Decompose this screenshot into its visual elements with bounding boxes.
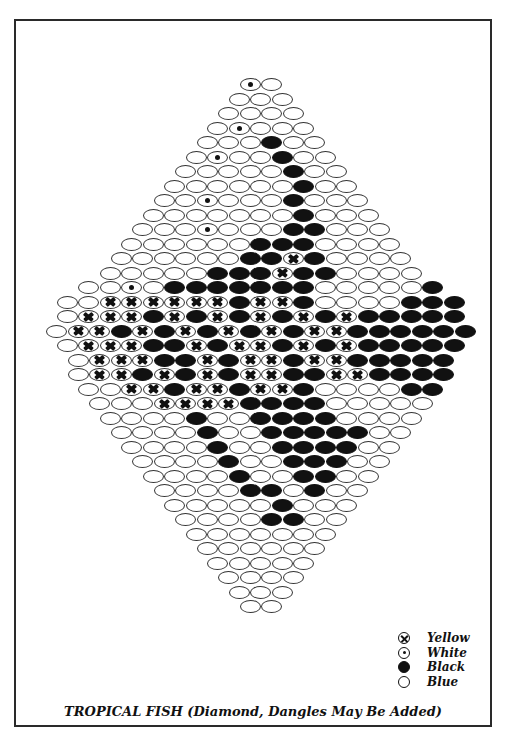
blue-bead: [261, 223, 282, 236]
black-bead: [283, 368, 304, 381]
blue-bead: [401, 281, 422, 294]
black-bead: [250, 281, 271, 294]
black-bead: [283, 397, 304, 410]
yellow-bead: [229, 339, 250, 352]
black-bead: [229, 281, 250, 294]
black-bead: [326, 455, 347, 468]
black-bead: [229, 383, 250, 396]
blue-bead: [186, 470, 207, 483]
black-bead: [401, 310, 422, 323]
black-bead: [315, 470, 336, 483]
black-bead: [207, 339, 228, 352]
black-bead: [401, 383, 422, 396]
blue-bead: [347, 194, 368, 207]
black-bead: [283, 354, 304, 367]
blue-bead: [154, 455, 175, 468]
blue-bead: [304, 136, 325, 149]
black-bead: [293, 470, 314, 483]
blue-bead: [175, 513, 196, 526]
blue-bead: [175, 426, 196, 439]
black-bead: [175, 368, 196, 381]
blue-bead: [326, 397, 347, 410]
blue-bead: [68, 354, 89, 367]
black-bead: [422, 310, 443, 323]
yellow-bead: [100, 310, 121, 323]
yellow-bead: [121, 383, 142, 396]
blue-bead: [229, 557, 250, 570]
blue-bead: [240, 600, 261, 613]
blue-bead: [358, 412, 379, 425]
blue-bead: [240, 426, 261, 439]
blue-bead: [261, 107, 282, 120]
yellow-bead: [111, 368, 132, 381]
blue-bead: [197, 136, 218, 149]
blue-bead: [240, 542, 261, 555]
black-bead: [186, 310, 207, 323]
yellow-bead: [207, 383, 228, 396]
blue-bead: [78, 281, 99, 294]
blue-bead: [261, 165, 282, 178]
legend-item-yellow: Yellow: [398, 631, 470, 646]
blue-bead: [121, 412, 142, 425]
black-bead: [336, 441, 357, 454]
blue-bead: [207, 180, 228, 193]
blue-bead: [315, 180, 336, 193]
blue-bead: [283, 107, 304, 120]
black-bead: [293, 238, 314, 251]
bead-pattern-diamond: [0, 0, 507, 620]
blue-bead: [154, 194, 175, 207]
yellow-bead: [304, 354, 325, 367]
yellow-bead: [261, 368, 282, 381]
black-bead: [293, 441, 314, 454]
yellow-bead: [272, 296, 293, 309]
blue-bead: [164, 209, 185, 222]
blue-bead: [250, 528, 271, 541]
blue-bead: [379, 267, 400, 280]
yellow-bead: [240, 354, 261, 367]
blue-bead: [229, 209, 250, 222]
black-bead: [433, 354, 454, 367]
blue-bead: [143, 238, 164, 251]
blue-bead: [229, 238, 250, 251]
blue-bead: [369, 252, 390, 265]
yellow-bead: [164, 310, 185, 323]
blue-bead: [390, 252, 411, 265]
blue-bead: [358, 267, 379, 280]
blue-bead: [143, 281, 164, 294]
black-bead: [250, 412, 271, 425]
blue-bead: [315, 528, 336, 541]
white-bead: [121, 281, 142, 294]
blue-bead: [207, 557, 228, 570]
blue-bead: [379, 281, 400, 294]
blue-bead: [229, 528, 250, 541]
blue-bead: [186, 267, 207, 280]
black-bead: [272, 441, 293, 454]
black-bead: [272, 339, 293, 352]
blue-bead: [250, 180, 271, 193]
blue-bead: [143, 209, 164, 222]
black-bead: [422, 296, 443, 309]
blue-bead: [240, 165, 261, 178]
blue-bead: [347, 223, 368, 236]
black-bead: [197, 426, 218, 439]
blue-bead: [369, 455, 390, 468]
blue-bead: [197, 165, 218, 178]
blue-bead: [315, 296, 336, 309]
black-bead: [433, 325, 454, 338]
yellow-bead: [326, 368, 347, 381]
black-bead: [283, 194, 304, 207]
yellow-bead: [293, 310, 314, 323]
black-bead: [261, 136, 282, 149]
black-bead: [369, 354, 390, 367]
black-bead: [315, 267, 336, 280]
blue-bead: [272, 470, 293, 483]
black-bead: [111, 325, 132, 338]
black-bead: [412, 354, 433, 367]
black-bead: [412, 368, 433, 381]
blue-bead: [412, 397, 433, 410]
blue-bead: [379, 383, 400, 396]
blue-bead: [132, 252, 153, 265]
circle-x-icon: [398, 632, 410, 644]
black-bead: [304, 223, 325, 236]
blue-bead: [186, 441, 207, 454]
